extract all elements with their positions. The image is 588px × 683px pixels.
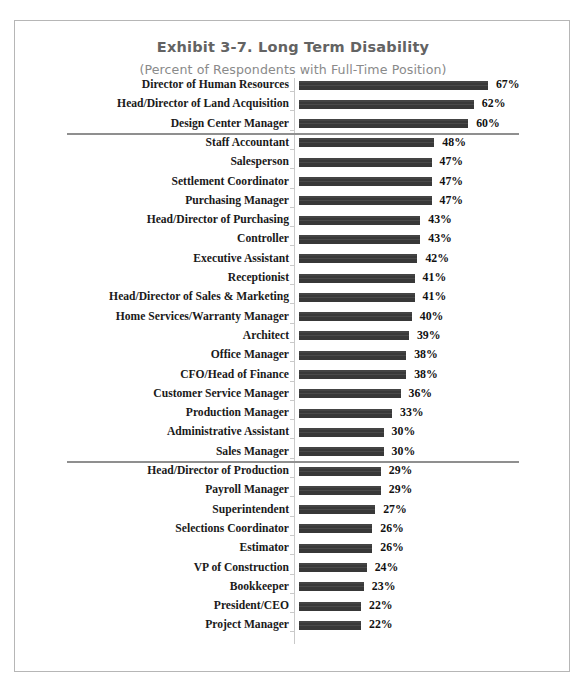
bar-row: CFO/Head of Finance38% <box>15 368 570 387</box>
bar <box>299 138 434 147</box>
bar-row: Selections Coordinator26% <box>15 522 570 541</box>
category-label: Home Services/Warranty Manager <box>39 310 289 324</box>
axis-tick <box>290 438 294 439</box>
bar-row: Salesperson47% <box>15 155 570 174</box>
category-label: Head/Director of Land Acquisition <box>39 97 289 111</box>
bar-value-label: 24% <box>375 560 399 574</box>
bar-chart-plot: Director of Human Resources67%Head/Direc… <box>15 21 570 672</box>
bar-value-label: 29% <box>389 482 413 496</box>
bar <box>299 505 375 514</box>
category-label: Receptionist <box>39 271 289 285</box>
bar-row: Bookkeeper23% <box>15 580 570 599</box>
category-label: Staff Accountant <box>39 136 289 150</box>
axis-tick <box>290 419 294 420</box>
bar <box>299 119 468 128</box>
section-separator <box>67 461 519 463</box>
category-label: Settlement Coordinator <box>39 175 289 189</box>
axis-tick <box>290 631 294 632</box>
bar <box>299 447 384 456</box>
bar-row: Receptionist41% <box>15 271 570 290</box>
axis-tick <box>290 265 294 266</box>
bar-value-label: 36% <box>409 386 433 400</box>
bar-value-label: 26% <box>380 521 404 535</box>
bar-value-label: 60% <box>476 116 500 130</box>
bar-row: Office Manager38% <box>15 348 570 367</box>
category-label: Executive Assistant <box>39 252 289 266</box>
bar-value-label: 26% <box>380 540 404 554</box>
category-label: Administrative Assistant <box>39 425 289 439</box>
bar <box>299 158 432 167</box>
bar-row: Architect39% <box>15 329 570 348</box>
bar-value-label: 38% <box>414 367 438 381</box>
bar-row: Controller43% <box>15 232 570 251</box>
bar-row: Head/Director of Purchasing43% <box>15 213 570 232</box>
category-label: Selections Coordinator <box>39 522 289 536</box>
bar-row: Head/Director of Sales & Marketing41% <box>15 290 570 309</box>
axis-tick <box>290 477 294 478</box>
axis-tick <box>290 303 294 304</box>
category-label: Director of Human Resources <box>39 78 289 92</box>
category-label: Design Center Manager <box>39 117 289 131</box>
axis-tick <box>290 226 294 227</box>
axis-tick <box>290 168 294 169</box>
bar-row: Head/Director of Land Acquisition62% <box>15 97 570 116</box>
axis-tick <box>290 574 294 575</box>
bar <box>299 81 488 90</box>
bar-row: Director of Human Resources67% <box>15 78 570 97</box>
bar-value-label: 47% <box>440 154 464 168</box>
bar-value-label: 40% <box>420 309 444 323</box>
bar-row: Project Manager22% <box>15 618 570 637</box>
category-label: Head/Director of Sales & Marketing <box>39 290 289 304</box>
category-label: Payroll Manager <box>39 483 289 497</box>
bar <box>299 621 361 630</box>
category-label: Salesperson <box>39 155 289 169</box>
bar-value-label: 43% <box>428 212 452 226</box>
bar <box>299 274 415 283</box>
bar <box>299 486 381 495</box>
bar-row: VP of Construction24% <box>15 561 570 580</box>
bar <box>299 293 415 302</box>
category-label: Project Manager <box>39 618 289 632</box>
bar-value-label: 30% <box>392 444 416 458</box>
category-label: Customer Service Manager <box>39 387 289 401</box>
bar <box>299 254 417 263</box>
bar <box>299 331 409 340</box>
bar-row: Customer Service Manager36% <box>15 387 570 406</box>
bar <box>299 563 367 572</box>
axis-tick <box>290 110 294 111</box>
bar <box>299 177 432 186</box>
bar-row: President/CEO22% <box>15 599 570 618</box>
bar-value-label: 41% <box>423 289 447 303</box>
category-label: Production Manager <box>39 406 289 420</box>
axis-tick <box>290 207 294 208</box>
bar-row: Executive Assistant42% <box>15 252 570 271</box>
bar <box>299 351 406 360</box>
bar-value-label: 23% <box>372 579 396 593</box>
bar <box>299 467 381 476</box>
bar-value-label: 43% <box>428 231 452 245</box>
axis-tick <box>290 516 294 517</box>
bar <box>299 389 401 398</box>
category-label: VP of Construction <box>39 561 289 575</box>
axis-tick <box>290 496 294 497</box>
category-label: Estimator <box>39 541 289 555</box>
bar-value-label: 67% <box>496 77 520 91</box>
bar-value-label: 47% <box>440 174 464 188</box>
category-label: CFO/Head of Finance <box>39 368 289 382</box>
bar-value-label: 22% <box>369 617 393 631</box>
bar <box>299 100 474 109</box>
bar-value-label: 62% <box>482 96 506 110</box>
bar-row: Superintendent27% <box>15 503 570 522</box>
axis-tick <box>290 612 294 613</box>
bar-value-label: 22% <box>369 598 393 612</box>
bar-value-label: 42% <box>425 251 449 265</box>
bar-value-label: 47% <box>440 193 464 207</box>
bar <box>299 544 372 553</box>
axis-tick <box>290 554 294 555</box>
category-label: Architect <box>39 329 289 343</box>
axis-tick <box>290 400 294 401</box>
category-label: Superintendent <box>39 503 289 517</box>
bar-value-label: 30% <box>392 424 416 438</box>
bar-row: Administrative Assistant30% <box>15 425 570 444</box>
axis-tick <box>290 149 294 150</box>
